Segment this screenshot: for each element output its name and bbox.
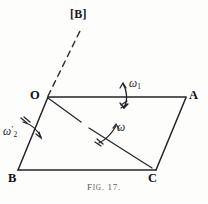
diagonal-segment-lower [89, 128, 152, 168]
point-label-b-image: [B] [70, 8, 87, 20]
dashed-line-o-to-b-image [48, 27, 82, 96]
omega-symbol: ω [117, 121, 125, 133]
omega1-label: ω1 [129, 78, 141, 90]
omega2-feather-left [21, 117, 30, 123]
vertex-label-a: A [189, 89, 198, 102]
omega1-symbol: ω [129, 77, 137, 89]
parallelogram-edges [18, 97, 186, 170]
diagonal-segment-upper [48, 98, 81, 122]
omega1-subscript: 1 [137, 82, 141, 91]
diagonal-o-c [48, 98, 152, 168]
omega2-subscript: 2 [13, 130, 17, 139]
edge-o-b [18, 97, 48, 170]
figure-container: [B] O A B C ω1 ω′2 ω FIG. 17. [0, 0, 208, 204]
caption-suffix: . 17. [102, 182, 121, 192]
vertex-label-o: O [30, 89, 40, 102]
edge-a-c [156, 98, 186, 171]
omega2-prime-label: ω′2 [3, 125, 17, 138]
omega1-arrowhead-top [120, 83, 126, 88]
dashed-segment [48, 27, 82, 96]
omega2-symbol: ω [3, 125, 11, 137]
figure-drawing [0, 0, 208, 204]
figure-caption: FIG. 17. [0, 182, 208, 192]
omega1-arrow [120, 83, 128, 108]
omega-label: ω [117, 122, 125, 134]
caption-smallcaps: IG [93, 184, 102, 192]
omega-arrow [95, 124, 119, 146]
